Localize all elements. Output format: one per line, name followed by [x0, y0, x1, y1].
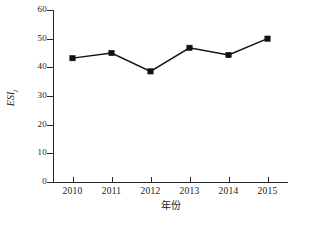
data-point-marker	[265, 36, 270, 41]
y-axis-title-text: ESI	[5, 92, 16, 106]
data-point-marker	[70, 55, 75, 60]
x-axis-title: 年份	[53, 200, 288, 212]
series-line-esij	[73, 39, 268, 72]
chart-figure: 0102030405060 201020112012201320142015 E…	[0, 0, 313, 225]
data-point-marker	[226, 52, 231, 57]
y-axis-title: ESIj	[5, 68, 21, 128]
data-series-layer	[0, 0, 313, 225]
data-point-marker	[148, 69, 153, 74]
data-point-marker	[187, 45, 192, 50]
y-axis-title-subscript: j	[11, 90, 19, 92]
data-point-marker	[109, 50, 114, 55]
